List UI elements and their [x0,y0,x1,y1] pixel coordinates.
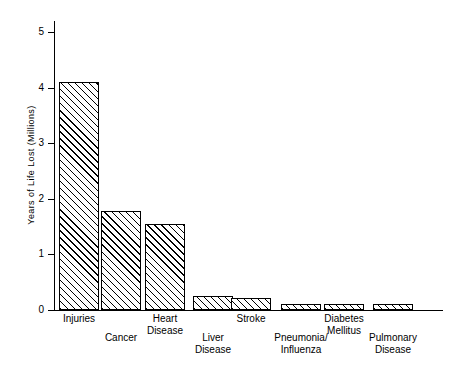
y-tick-1 [48,254,55,255]
y-tick-3 [48,143,55,144]
bar [59,82,99,310]
y-tick-label: 2 [30,194,44,204]
x-axis-label: Stroke [212,313,290,325]
x-axis-line [54,310,443,311]
bar [231,298,271,310]
y-tick-label: 1 [30,249,44,259]
bar [324,304,364,310]
y-tick-5 [48,32,55,33]
bar-chart: Years of Life Lost (Millions) 012345 Inj… [0,0,453,368]
x-axis-label: Liver Disease [174,332,252,356]
x-axis-label: Injuries [40,313,118,325]
y-axis-title: Years of Life Lost (Millions) [24,15,38,315]
bar [193,296,233,310]
bar [281,304,321,310]
bar [373,304,413,310]
y-tick-label: 4 [30,83,44,93]
plot-area [55,21,443,310]
y-tick-label: 5 [30,27,44,37]
x-axis-label: Pulmonary Disease [354,332,432,356]
bar [145,224,185,310]
y-tick-0 [48,310,55,311]
y-tick-4 [48,88,55,89]
y-tick-2 [48,199,55,200]
bar [101,211,141,310]
y-tick-label: 3 [30,138,44,148]
